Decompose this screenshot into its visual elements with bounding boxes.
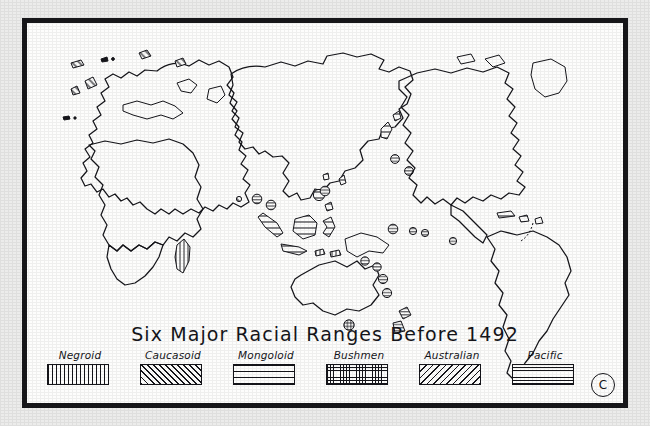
copyright-letter: C [599, 378, 607, 392]
legend-entry-mongoloid[interactable]: Mongoloid [227, 349, 320, 385]
legend-entry-bushmen[interactable]: Bushmen [320, 349, 413, 385]
legend-entry-caucasoid[interactable]: Caucasoid [134, 349, 227, 385]
legend-swatch-australian [419, 364, 481, 385]
legend-label-australian: Australian [415, 349, 489, 361]
legend-swatch-pacific [512, 364, 574, 385]
legend-swatch-bushmen [326, 364, 388, 385]
legend-entry-negroid[interactable]: Negroid [41, 349, 134, 385]
map-frame: Six Major Racial Ranges Before 1492 Negr… [22, 18, 628, 408]
legend-label-negroid: Negroid [43, 349, 117, 361]
map-title: Six Major Racial Ranges Before 1492 [27, 323, 623, 345]
legend-label-mongoloid: Mongoloid [229, 349, 303, 361]
legend-swatch-caucasoid [140, 364, 202, 385]
legend-label-pacific: Pacific [508, 349, 582, 361]
map-plate: Six Major Racial Ranges Before 1492 Negr… [0, 0, 650, 426]
world-map-svg [27, 23, 623, 403]
legend-swatch-mongoloid [233, 364, 295, 385]
legend-entry-australian[interactable]: Australian [413, 349, 506, 385]
legend-entry-pacific[interactable]: Pacific [506, 349, 599, 385]
legend: Negroid Caucasoid Mongoloid Bushmen Aust… [41, 349, 611, 385]
legend-label-caucasoid: Caucasoid [136, 349, 210, 361]
legend-label-bushmen: Bushmen [322, 349, 396, 361]
world-map [27, 23, 623, 403]
copyright-mark: C [591, 373, 615, 397]
legend-swatch-negroid [47, 364, 109, 385]
